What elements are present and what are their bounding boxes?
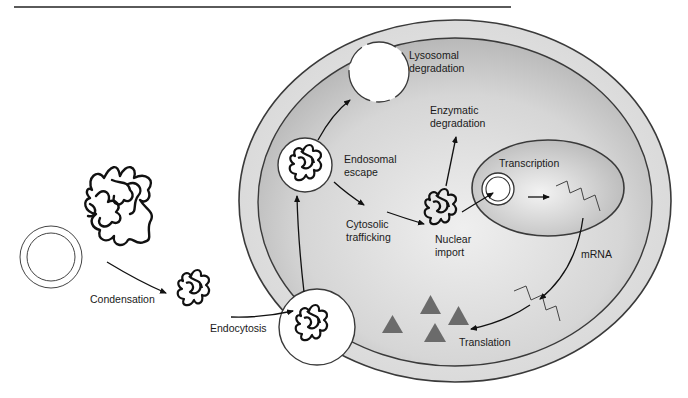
label-cytosolic-2: trafficking [346, 231, 391, 243]
label-cytosolic-1: Cytosolic [346, 218, 389, 230]
nuclear-plasmid [482, 173, 514, 205]
label-nuclear-1: Nuclear [435, 233, 472, 245]
label-condensation: Condensation [90, 293, 155, 305]
label-endocytosis: Endocytosis [210, 322, 267, 334]
label-nuclear-2: import [435, 246, 464, 258]
label-enzymatic-2: degradation [430, 117, 486, 129]
lysosome [349, 42, 409, 102]
label-translation: Translation [459, 336, 511, 348]
label-lysosomal-1: Lysosomal [409, 49, 459, 61]
label-transcription: Transcription [499, 157, 559, 169]
free-dna-tangle [85, 167, 152, 245]
gene-delivery-diagram: Condensation Endocytosis Endosomal escap… [0, 0, 688, 398]
label-endosomal-escape-1: Endosomal [344, 153, 397, 165]
condensed-complex [178, 270, 209, 305]
label-enzymatic-1: Enzymatic [430, 104, 478, 116]
arrow-condensation [107, 262, 166, 293]
label-endosomal-escape-2: escape [344, 166, 378, 178]
plasmid-dna [20, 226, 82, 288]
label-mrna: mRNA [581, 248, 612, 260]
label-lysosomal-2: degradation [409, 62, 465, 74]
